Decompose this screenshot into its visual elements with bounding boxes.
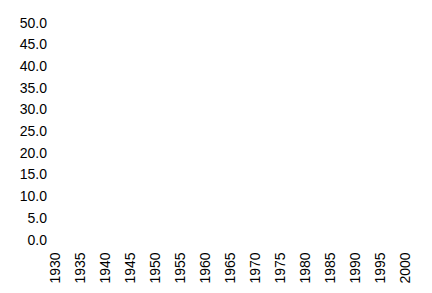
- x-tick-label: 1930: [48, 252, 62, 283]
- x-tick-label: 1970: [248, 252, 262, 283]
- x-tick-label: 1955: [173, 252, 187, 283]
- x-tick-label: 2000: [398, 252, 412, 283]
- x-tick-label: 1945: [123, 252, 137, 283]
- x-tick-label: 1950: [148, 252, 162, 283]
- x-tick-label: 1990: [348, 252, 362, 283]
- x-tick-label: 1965: [223, 252, 237, 283]
- x-tick-label: 1985: [323, 252, 337, 283]
- x-tick-label: 1935: [73, 252, 87, 283]
- x-tick-label: 1975: [273, 252, 287, 283]
- chart-canvas: 50.045.040.035.030.025.020.015.010.05.00…: [0, 0, 432, 293]
- x-tick-label: 1960: [198, 252, 212, 283]
- x-tick-label: 1995: [373, 252, 387, 283]
- x-tick-label: 1940: [98, 252, 112, 283]
- x-axis-tick-labels: 1930193519401945195019551960196519701975…: [0, 0, 432, 293]
- x-tick-label: 1980: [298, 252, 312, 283]
